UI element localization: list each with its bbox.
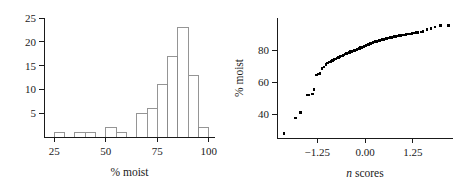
- histogram-bar: [85, 132, 95, 137]
- qqplot-data-point: [323, 66, 326, 69]
- histogram-bar: [106, 127, 116, 137]
- histogram-bar: [137, 113, 147, 137]
- histogram-x-tick-label: 50: [100, 145, 112, 157]
- qqplot-x-tick-label: 1.25: [403, 146, 423, 158]
- qqplot-x-axis-title-rest: scores: [352, 167, 384, 179]
- qqplot-data-point: [283, 132, 286, 135]
- histogram-bar: [157, 85, 167, 137]
- qqplot-data-point: [417, 31, 420, 34]
- histogram-x-tick-label: 25: [49, 145, 61, 157]
- qqplot-data-point: [434, 26, 437, 29]
- histogram-y-tick-label: 10: [25, 83, 37, 95]
- histogram-x-axis-title: % moist: [110, 166, 149, 178]
- qqplot-data-point: [430, 27, 433, 30]
- histogram-y-tick-label: 15: [25, 60, 37, 72]
- qqplot-svg: 406080−1.250.001.25 % moist n scores: [229, 0, 458, 189]
- qqplot-data-point: [426, 28, 429, 31]
- histogram-y-tick-label: 5: [31, 107, 37, 119]
- qqplot-data-point: [319, 72, 322, 75]
- qqplot-y-tick-label: 40: [258, 108, 270, 120]
- histogram-bar: [178, 28, 188, 137]
- histogram-bar: [199, 127, 209, 137]
- qqplot-axes-group: [272, 18, 453, 143]
- qqplot-data-point: [313, 88, 316, 91]
- qqplot-data-point: [412, 32, 415, 35]
- qqplot-data-point: [299, 111, 302, 114]
- histogram-panel: 510152025255075100 % moist: [0, 0, 229, 189]
- qqplot-panel: 406080−1.250.001.25 % moist n scores: [229, 0, 458, 189]
- histogram-x-tick-label: 100: [201, 145, 218, 157]
- qqplot-data-point: [420, 31, 423, 34]
- qqplot-x-tick-label: 0.00: [355, 146, 375, 158]
- qqplot-y-tick-label: 80: [258, 44, 270, 56]
- qqplot-x-tick-label: −1.25: [304, 146, 330, 158]
- qqplot-data-point: [311, 93, 314, 96]
- histogram-x-tick-label: 75: [152, 145, 164, 157]
- qqplot-points-group: [283, 24, 450, 135]
- qqplot-data-point: [407, 33, 410, 36]
- qqplot-data-point: [447, 24, 450, 27]
- histogram-bar: [75, 132, 85, 137]
- histogram-y-tick-label: 25: [25, 12, 37, 24]
- qqplot-data-point: [422, 30, 425, 33]
- figure-container: 510152025255075100 % moist 406080−1.250.…: [0, 0, 458, 189]
- qqplot-data-point: [306, 94, 309, 97]
- histogram-bar: [168, 56, 178, 137]
- qqplot-y-axis-title: % moist: [233, 58, 245, 97]
- histogram-bar: [54, 132, 64, 137]
- qqplot-tick-labels-group: 406080−1.250.001.25: [258, 44, 423, 158]
- qqplot-data-point: [308, 94, 311, 97]
- histogram-svg: 510152025255075100 % moist: [0, 0, 229, 189]
- histogram-y-tick-label: 20: [25, 36, 37, 48]
- qqplot-y-tick-label: 60: [258, 76, 270, 88]
- qqplot-axis-lines: [277, 18, 453, 138]
- histogram-bars-group: [54, 28, 209, 137]
- histogram-bar: [147, 108, 157, 137]
- qqplot-x-axis-title: n scores: [346, 167, 384, 179]
- histogram-bar: [188, 75, 198, 137]
- histogram-bar: [116, 132, 126, 137]
- qqplot-data-point: [439, 24, 442, 27]
- qqplot-data-point: [294, 117, 297, 120]
